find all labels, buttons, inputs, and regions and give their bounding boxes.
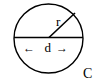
radius-label: r (56, 14, 61, 29)
diameter-label: d (45, 40, 52, 55)
right-arrow-icon: → (56, 41, 68, 55)
radius-line (49, 13, 75, 38)
circle-diagram: r ← d → C (0, 0, 98, 81)
circumference-label: C (83, 66, 92, 81)
left-arrow-icon: ← (23, 41, 35, 55)
